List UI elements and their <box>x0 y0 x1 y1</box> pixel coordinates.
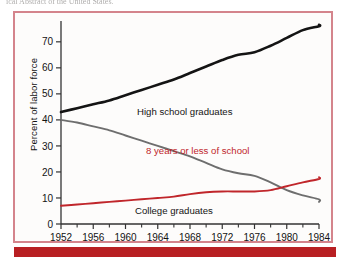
y-tick-label: 60 <box>42 62 54 73</box>
x-tick-label: 1976 <box>243 232 266 243</box>
chart-plot-area: Percent of labor force 010203040506070 1… <box>13 11 333 243</box>
x-tick-label: 1964 <box>147 232 170 243</box>
bottom-red-rule <box>14 247 336 257</box>
x-tick-label: 1980 <box>276 232 299 243</box>
y-axis-tick-labels: 010203040506070 <box>42 36 54 229</box>
series-line-college-graduates <box>61 177 320 206</box>
x-axis-tick-labels: 195219561960196419681972197619801984 <box>50 232 331 243</box>
y-tick-label: 40 <box>42 114 54 125</box>
y-axis-ticks <box>56 42 61 224</box>
x-tick-label: 1972 <box>211 232 234 243</box>
y-tick-label: 30 <box>42 141 54 152</box>
y-tick-label: 0 <box>47 219 53 230</box>
x-tick-label: 1984 <box>308 232 331 243</box>
x-axis-ticks <box>61 224 319 229</box>
series-label-high-school-graduates: High school graduates <box>137 106 233 117</box>
x-tick-label: 1952 <box>50 232 73 243</box>
line-chart-svg: 010203040506070 195219561960196419681972… <box>13 11 333 243</box>
scan-caption-fragment: ical Abstract of the United States. <box>6 0 256 6</box>
x-tick-label: 1968 <box>179 232 202 243</box>
series-label-college-graduates: College graduates <box>135 205 213 216</box>
x-tick-label: 1956 <box>82 232 105 243</box>
y-tick-label: 70 <box>42 36 54 47</box>
y-tick-label: 10 <box>42 193 54 204</box>
series-line-high-school-graduates <box>61 25 320 112</box>
series-label-eight-years-or-less: 8 years or less of school <box>146 145 249 156</box>
y-tick-label: 50 <box>42 88 54 99</box>
series-line-eight-years-or-less <box>61 120 320 202</box>
y-tick-label: 20 <box>42 167 54 178</box>
x-tick-label: 1960 <box>114 232 137 243</box>
